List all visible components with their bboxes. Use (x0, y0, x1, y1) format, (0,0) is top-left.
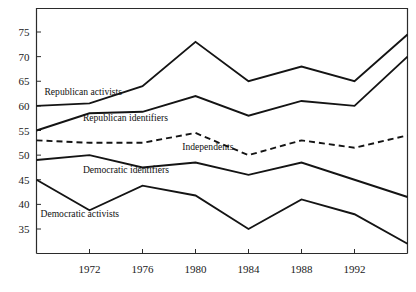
y-tick-label: 70 (19, 51, 31, 63)
y-tick-label: 65 (19, 75, 31, 87)
y-tick-label: 35 (19, 223, 31, 235)
x-tick-label: 1976 (132, 263, 155, 275)
x-tick-label: 1984 (238, 263, 261, 275)
y-axis-tick-labels: 354045505560657075 (19, 26, 31, 235)
y-tick-label: 40 (19, 198, 31, 210)
x-tick-label: 1980 (185, 263, 208, 275)
y-tick-label: 45 (19, 174, 31, 186)
x-tick-label: 1988 (291, 263, 314, 275)
y-tick-label: 75 (19, 26, 31, 38)
series-label-republican-identifiers: Republican identifiers (83, 112, 168, 123)
y-tick-label: 60 (19, 100, 31, 112)
series-label-republican-activists: Republican activists (44, 86, 122, 97)
y-tick-label: 55 (19, 125, 31, 137)
y-tick-label: 50 (19, 149, 31, 161)
series-label-independents: Independents (182, 141, 233, 152)
line-chart-figure: 354045505560657075 197219761980198419881… (0, 0, 416, 292)
series-label-democratic-identifiers: Democratic identifiers (83, 164, 169, 175)
series-label-democratic-activists: Democratic activists (40, 208, 119, 219)
x-tick-label: 1972 (79, 263, 101, 275)
chart-canvas: 354045505560657075 197219761980198419881… (0, 0, 416, 292)
x-tick-label: 1992 (344, 263, 366, 275)
